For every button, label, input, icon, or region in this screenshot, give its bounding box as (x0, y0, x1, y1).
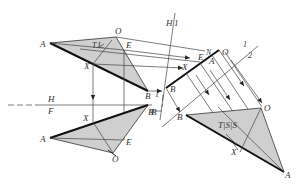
label-edge-X: X (181, 62, 188, 72)
label-edge-O: O (222, 47, 229, 57)
descriptive-geometry-diagram: A O E X B T.L. H F A O E X B H 1 B X E N… (0, 0, 299, 186)
label-top-O: O (115, 26, 122, 36)
label-fold-F: F (47, 106, 54, 116)
label-edge-B: B (170, 84, 176, 94)
label-ts-O: O (264, 103, 271, 113)
label-fold-12-1: 1 (243, 40, 247, 49)
label-ts-X: X (230, 147, 237, 157)
label-fold-12-2: 2 (248, 51, 252, 60)
label-fold-H1-1: 1 (174, 18, 179, 28)
label-top-A: A (39, 39, 46, 49)
label-fold-H1-H: H (165, 18, 173, 28)
label-ts-A: A (284, 170, 291, 180)
label-front-A: A (39, 134, 46, 144)
label-fold-H: H (47, 94, 55, 104)
label-true-length: T.L. (92, 41, 104, 50)
label-fold-B: B (151, 107, 157, 117)
label-top-B: B (145, 91, 151, 101)
label-one-mark: 1 (155, 90, 159, 99)
fold-line-H-1 (160, 13, 175, 120)
label-front-E: E (125, 137, 132, 147)
front-view-triangle (50, 105, 148, 156)
label-ts-B: B (177, 112, 183, 122)
label-true-size: T|S|S (218, 120, 237, 130)
label-top-X: X (83, 61, 90, 71)
true-size-triangle (186, 107, 284, 172)
label-front-X: X (82, 113, 89, 123)
label-edge-E: E (197, 52, 204, 62)
label-top-E: E (125, 40, 132, 50)
label-edge-A: A (208, 56, 215, 66)
label-front-O: O (112, 154, 119, 164)
